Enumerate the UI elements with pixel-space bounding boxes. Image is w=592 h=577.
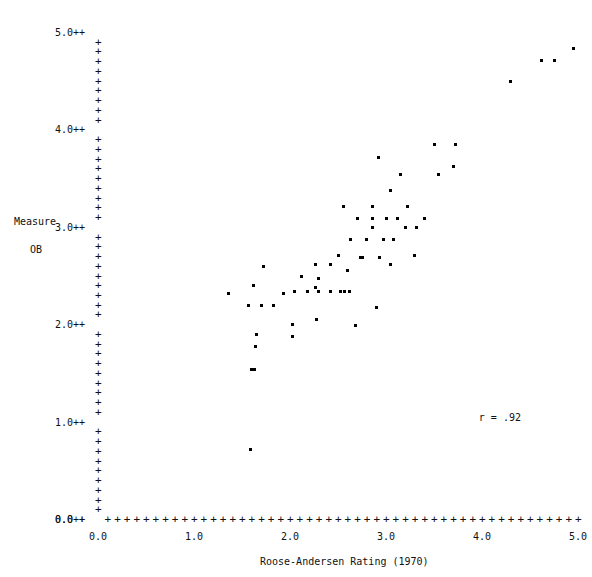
x-tick: + [402, 514, 409, 525]
data-point [300, 275, 303, 278]
x-tick: + [239, 514, 246, 525]
x-tick: + [345, 514, 352, 525]
scatter-plot: 0.0+++++++++++1.0+++++++++++2.0+++++++++… [0, 0, 592, 577]
x-tick: + [508, 514, 515, 525]
data-point [329, 263, 332, 266]
x-tick: + [172, 514, 179, 525]
data-point [317, 290, 320, 293]
data-point [509, 80, 512, 83]
x-tick: + [105, 514, 112, 525]
data-point [371, 226, 374, 229]
y-axis-label: Measure [14, 215, 56, 229]
x-tick: + [364, 514, 371, 525]
data-point [375, 306, 378, 309]
data-point [282, 292, 285, 295]
data-point [406, 205, 409, 208]
x-tick: + [469, 514, 476, 525]
data-point [291, 335, 294, 338]
data-point [291, 323, 294, 326]
data-point [247, 304, 250, 307]
data-point [314, 263, 317, 266]
data-point [329, 290, 332, 293]
data-point [572, 47, 575, 50]
data-point [337, 254, 340, 257]
x-tick: + [441, 514, 448, 525]
x-tick: + [565, 514, 572, 525]
y-minor-tick: + [95, 232, 102, 243]
data-point [540, 59, 543, 62]
data-point [415, 226, 418, 229]
x-tick: + [153, 514, 160, 525]
data-point [249, 448, 252, 451]
data-point [227, 292, 230, 295]
data-point [342, 205, 345, 208]
data-point [452, 165, 455, 168]
x-tick: + [575, 514, 582, 525]
x-tick: + [297, 514, 304, 525]
data-point [254, 345, 257, 348]
y-minor-tick: + [95, 426, 102, 437]
data-point [361, 256, 364, 259]
data-point [454, 143, 457, 146]
x-tick: + [412, 514, 419, 525]
data-point [423, 217, 426, 220]
data-point [262, 265, 265, 268]
origin-label: 0.0 + [55, 515, 85, 525]
x-tick: + [249, 514, 256, 525]
x-tick: + [517, 514, 524, 525]
x-tick: + [537, 514, 544, 525]
data-point [343, 290, 346, 293]
data-point [314, 286, 317, 289]
x-tick-label-2.0: 2.0 [281, 532, 299, 542]
x-tick: + [431, 514, 438, 525]
data-point [317, 277, 320, 280]
data-point [392, 238, 395, 241]
data-point [378, 256, 381, 259]
x-tick: + [393, 514, 400, 525]
data-point [365, 238, 368, 241]
y-tick-label-4.0: 4.0++ [55, 125, 85, 135]
data-point [348, 290, 351, 293]
x-tick: + [201, 514, 208, 525]
x-axis-label: Roose-Andersen Rating (1970) [260, 556, 429, 568]
x-tick: + [191, 514, 198, 525]
x-tick: + [498, 514, 505, 525]
x-tick-label-4.0: 4.0 [473, 532, 491, 542]
x-tick: + [421, 514, 428, 525]
x-tick: + [124, 514, 131, 525]
data-point [433, 143, 436, 146]
y-minor-tick: + [95, 37, 102, 48]
x-tick: + [143, 514, 150, 525]
x-tick: + [383, 514, 390, 525]
data-point [413, 254, 416, 257]
data-point [371, 205, 374, 208]
x-tick: + [316, 514, 323, 525]
data-point [339, 290, 342, 293]
x-tick: + [325, 514, 332, 525]
y-tick-label-5.0: 5.0++ [55, 28, 85, 38]
x-tick-label-1.0: 1.0 [185, 532, 203, 542]
data-point [306, 290, 309, 293]
data-point [399, 173, 402, 176]
x-tick: + [306, 514, 313, 525]
x-tick: + [277, 514, 284, 525]
x-tick: + [354, 514, 361, 525]
x-tick: + [489, 514, 496, 525]
x-tick: + [114, 514, 121, 525]
x-tick: + [373, 514, 380, 525]
x-tick: + [181, 514, 188, 525]
data-point [404, 226, 407, 229]
x-tick-label-5.0: 5.0 [569, 532, 587, 542]
y-axis-label-line2: OB [30, 243, 42, 257]
data-point [315, 318, 318, 321]
data-point [356, 217, 359, 220]
x-tick: + [546, 514, 553, 525]
y-minor-tick: + [95, 329, 102, 340]
data-point [252, 284, 255, 287]
data-point [382, 238, 385, 241]
data-point [377, 156, 380, 159]
x-tick: + [335, 514, 342, 525]
data-point [346, 269, 349, 272]
x-tick: + [460, 514, 467, 525]
data-point [396, 217, 399, 220]
